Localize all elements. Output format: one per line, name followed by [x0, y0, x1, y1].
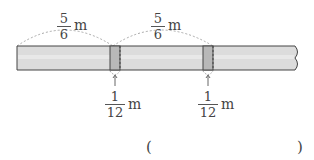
- overlap-2: [203, 46, 213, 70]
- bottom-unit-1: m: [128, 96, 141, 112]
- answer-close-paren: ): [297, 138, 303, 156]
- bottom-fraction-1: 1 12: [105, 90, 125, 119]
- answer-open-paren: (: [146, 138, 152, 156]
- overlap-1: [110, 46, 120, 70]
- bottom-fraction-2: 1 12: [198, 90, 218, 119]
- top-fraction-1: 5 6: [57, 12, 71, 41]
- top-unit-1: m: [74, 17, 87, 33]
- tape-highlight: [18, 55, 294, 59]
- top-unit-2: m: [168, 17, 181, 33]
- bottom-unit-2: m: [221, 96, 234, 112]
- top-fraction-2: 5 6: [151, 12, 165, 41]
